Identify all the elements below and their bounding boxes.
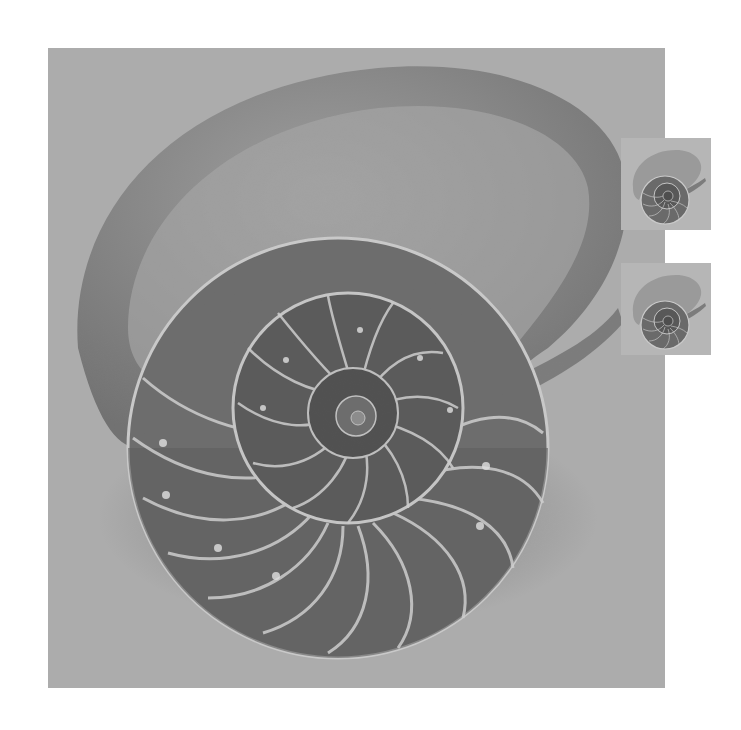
nautilus-thumbnail-2[interactable] [621,263,711,355]
nautilus-thumbnail-icon [621,138,711,230]
nautilus-thumbnail-1[interactable] [621,138,711,230]
nautilus-thumbnail-icon [621,263,711,355]
nautilus-shell-illustration [48,48,665,688]
nautilus-shell-photo [48,48,665,688]
